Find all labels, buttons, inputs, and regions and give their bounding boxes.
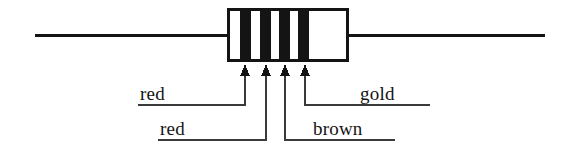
resistor-diagram-svg	[0, 0, 574, 158]
callout-label-red-2: red	[160, 119, 185, 138]
color-band-4-gold	[298, 11, 309, 59]
arrowhead-gold	[300, 64, 310, 76]
color-band-2-red	[260, 11, 271, 59]
arrowhead-red-2	[261, 64, 271, 76]
resistor-diagram-canvas: red gold red brown	[0, 0, 574, 158]
arrowhead-brown	[280, 64, 290, 76]
color-band-1-red	[240, 11, 251, 59]
color-band-3-brown	[279, 11, 290, 59]
callout-label-red-1: red	[140, 84, 165, 103]
arrowhead-red-1	[240, 64, 250, 76]
callout-label-brown: brown	[313, 119, 363, 138]
callout-label-gold: gold	[360, 84, 395, 103]
